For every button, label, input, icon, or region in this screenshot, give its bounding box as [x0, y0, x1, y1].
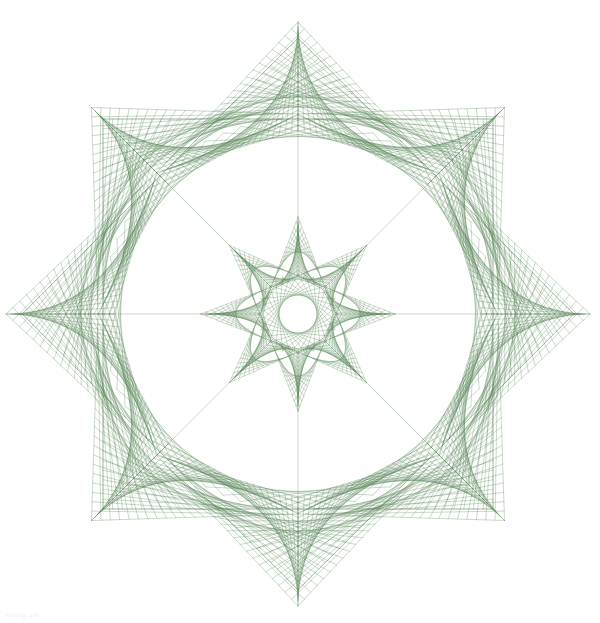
thread-line [422, 314, 494, 466]
thread-line [307, 511, 504, 514]
thread-line [98, 323, 101, 520]
thread-line [367, 113, 499, 245]
thread-line [298, 438, 450, 510]
string-art-canvas [0, 0, 600, 623]
thread-line [102, 314, 174, 466]
thread-line [102, 163, 174, 315]
thread-line [422, 163, 494, 315]
thread-line [233, 249, 273, 292]
thread-line [97, 383, 229, 515]
string-art-lines [6, 22, 590, 606]
thread-line [298, 118, 450, 190]
thread-line [233, 340, 276, 380]
thread-line [367, 383, 499, 515]
caption-text: string art [6, 612, 38, 620]
thread-line [92, 114, 289, 117]
thread-line [495, 108, 498, 305]
thread-line [321, 249, 364, 289]
thread-line [147, 118, 299, 190]
thread-line [147, 438, 299, 510]
thread-line [97, 113, 229, 245]
thread-line [324, 337, 364, 380]
